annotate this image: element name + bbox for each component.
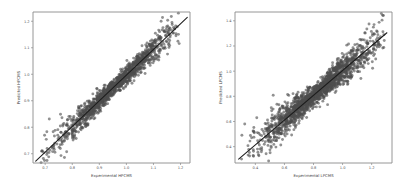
y-tick-label: 0.6 xyxy=(226,120,232,124)
y-tick-label: 1.2 xyxy=(24,20,30,24)
x-tick-label: 0.4 xyxy=(252,166,258,170)
y-tick-label: 0.8 xyxy=(24,126,30,130)
figure-canvas: 0.70.80.91.01.11.20.70.80.91.01.11.2Expe… xyxy=(0,0,404,191)
x-tick-label: 0.6 xyxy=(282,166,288,170)
y-tick-label: 0.9 xyxy=(24,99,30,103)
x-axis-label: Experimental HPCMS xyxy=(91,173,133,178)
scatter-panel-hpcms: 0.70.80.91.01.11.20.70.80.91.01.11.2Expe… xyxy=(0,0,202,191)
y-tick-label: 1.0 xyxy=(226,70,232,74)
plot-area-hpcms: 0.70.80.91.01.11.20.70.80.91.01.11.2Expe… xyxy=(0,0,202,191)
x-tick-label: 1.0 xyxy=(124,166,130,170)
y-axis-label: Predicted LPCMS xyxy=(218,71,223,104)
x-tick-label: 0.9 xyxy=(96,166,102,170)
y-tick-label: 1.4 xyxy=(226,19,232,23)
x-tick-label: 0.7 xyxy=(42,166,48,170)
y-tick-label: 0.8 xyxy=(226,95,232,99)
x-axis-label: Experimental LPCMS xyxy=(293,173,334,178)
x-tick-label: 0.8 xyxy=(311,166,317,170)
regression-line xyxy=(36,17,188,161)
regression-line xyxy=(239,33,387,159)
y-tick-label: 0.4 xyxy=(226,145,232,149)
x-tick-label: 0.8 xyxy=(69,166,75,170)
y-tick-label: 1.1 xyxy=(24,46,30,50)
y-axis-label: Predicted HPCMS xyxy=(16,70,21,104)
x-tick-label: 1.2 xyxy=(369,166,375,170)
x-tick-label: 1.0 xyxy=(340,166,346,170)
y-tick-label: 1.2 xyxy=(226,44,232,48)
x-tick-label: 1.2 xyxy=(178,166,184,170)
scatter-points xyxy=(40,12,181,164)
plot-area-lpcms: 0.40.60.81.01.20.40.60.81.01.21.4Experim… xyxy=(202,0,404,191)
scatter-panel-lpcms: 0.40.60.81.01.20.40.60.81.01.21.4Experim… xyxy=(202,0,404,191)
y-tick-label: 0.7 xyxy=(24,152,30,156)
y-tick-label: 1.0 xyxy=(24,73,30,77)
x-tick-label: 1.1 xyxy=(151,166,157,170)
